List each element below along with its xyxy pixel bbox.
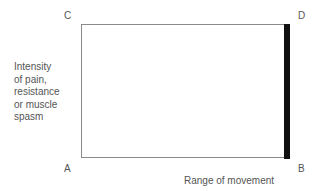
y-label-line: or muscle bbox=[14, 99, 60, 112]
y-label-line: of pain, bbox=[14, 74, 60, 87]
y-label-line: Intensity bbox=[14, 61, 60, 74]
corner-label-a: A bbox=[64, 163, 71, 174]
y-label-line: spasm bbox=[14, 111, 60, 124]
movement-diagram-box bbox=[81, 24, 289, 158]
corner-label-d: D bbox=[298, 10, 305, 21]
corner-label-c: C bbox=[64, 10, 71, 21]
y-label-line: resistance bbox=[14, 86, 60, 99]
corner-label-b: B bbox=[298, 163, 305, 174]
x-axis-label: Range of movement bbox=[184, 175, 274, 186]
end-of-range-bar bbox=[284, 24, 290, 159]
y-axis-label: Intensity of pain, resistance or muscle … bbox=[14, 61, 60, 124]
